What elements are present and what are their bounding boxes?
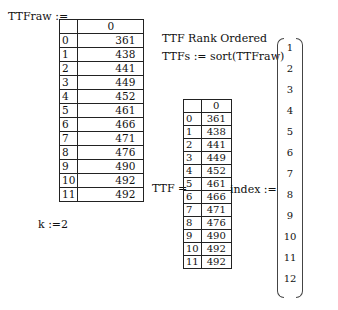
cell-value: 441 (201, 139, 231, 152)
cell-value: 466 (201, 191, 231, 204)
column-header: 0 (78, 20, 144, 34)
vector-item: 8 (277, 189, 303, 210)
table-row: 7471 (184, 204, 232, 217)
vector-item: 5 (277, 126, 303, 147)
cell-value: 449 (201, 152, 231, 165)
table-row: 1438 (60, 48, 144, 62)
row-index: 7 (184, 204, 202, 217)
table-row: 11492 (60, 188, 144, 202)
column-header: 0 (201, 100, 231, 113)
cell-value[interactable]: 452 (78, 90, 144, 104)
table-row: 2441 (184, 139, 232, 152)
sort-definition[interactable]: TTFs := sort(TTFraw) (162, 50, 284, 63)
ttf-sorted-label: TTF = (152, 182, 187, 195)
matrix-header-row: 0 (184, 100, 232, 113)
table-row: 5461 (184, 178, 232, 191)
row-index: 0 (60, 34, 78, 48)
vector-item: 6 (277, 147, 303, 168)
index-label: index := (230, 183, 277, 196)
corner-cell (184, 100, 202, 113)
row-index: 7 (60, 132, 78, 146)
cell-value[interactable]: 461 (78, 104, 144, 118)
cell-value[interactable]: 438 (78, 48, 144, 62)
ttf-sorted-matrix: 0 0361 1438 2441 3449 4452 5461 6466 747… (183, 99, 232, 269)
cell-value: 438 (201, 126, 231, 139)
cell-value[interactable]: 490 (78, 160, 144, 174)
cell-value[interactable]: 471 (78, 132, 144, 146)
table-row: 8476 (184, 217, 232, 230)
rank-ordered-heading: TTF Rank Ordered (162, 32, 267, 45)
vector-item: 2 (277, 63, 303, 84)
cell-value: 361 (201, 113, 231, 126)
table-row: 10492 (60, 174, 144, 188)
cell-value[interactable]: 449 (78, 76, 144, 90)
vector-item: 10 (277, 231, 303, 252)
table-row: 0361 (60, 34, 144, 48)
cell-value[interactable]: 466 (78, 118, 144, 132)
table-row: 4452 (60, 90, 144, 104)
table-row: 11492 (184, 256, 232, 269)
vector-item: 3 (277, 84, 303, 105)
vector-item: 9 (277, 210, 303, 231)
row-index: 4 (184, 165, 202, 178)
cell-value: 452 (201, 165, 231, 178)
table-row: 8476 (60, 146, 144, 160)
index-vector[interactable]: 1 2 3 4 5 6 7 8 9 10 11 12 (277, 38, 303, 296)
vector-item: 7 (277, 168, 303, 189)
row-index: 2 (60, 62, 78, 76)
cell-value: 476 (201, 217, 231, 230)
row-index: 10 (60, 174, 78, 188)
row-index: 4 (60, 90, 78, 104)
cell-value[interactable]: 476 (78, 146, 144, 160)
table-row: 7471 (60, 132, 144, 146)
cell-value[interactable]: 492 (78, 174, 144, 188)
row-index: 3 (184, 152, 202, 165)
cell-value[interactable]: 441 (78, 62, 144, 76)
vector-item: 4 (277, 105, 303, 126)
row-index: 11 (60, 188, 78, 202)
vector-item: 1 (277, 42, 303, 63)
ttfraw-matrix[interactable]: 0 0361 1438 2441 3449 4452 5461 6466 747… (59, 19, 144, 202)
k-definition[interactable]: k :=2 (38, 218, 68, 231)
cell-value: 492 (201, 243, 231, 256)
table-row: 6466 (60, 118, 144, 132)
matrix-header-row: 0 (60, 20, 144, 34)
row-index: 9 (184, 230, 202, 243)
table-row: 5461 (60, 104, 144, 118)
vector-item: 11 (277, 252, 303, 273)
table-row: 9490 (184, 230, 232, 243)
cell-value: 461 (201, 178, 231, 191)
table-row: 10492 (184, 243, 232, 256)
table-row: 0361 (184, 113, 232, 126)
row-index: 8 (60, 146, 78, 160)
table-row: 6466 (184, 191, 232, 204)
row-index: 8 (184, 217, 202, 230)
row-index: 10 (184, 243, 202, 256)
table-row: 4452 (184, 165, 232, 178)
row-index: 0 (184, 113, 202, 126)
row-index: 6 (184, 191, 202, 204)
table-row: 3449 (184, 152, 232, 165)
cell-value[interactable]: 492 (78, 188, 144, 202)
row-index: 2 (184, 139, 202, 152)
cell-value[interactable]: 361 (78, 34, 144, 48)
table-row: 2441 (60, 62, 144, 76)
row-index: 3 (60, 76, 78, 90)
cell-value: 471 (201, 204, 231, 217)
cell-value: 492 (201, 256, 231, 269)
table-row: 1438 (184, 126, 232, 139)
row-index: 9 (60, 160, 78, 174)
row-index: 5 (184, 178, 202, 191)
table-row: 9490 (60, 160, 144, 174)
row-index: 11 (184, 256, 202, 269)
table-row: 3449 (60, 76, 144, 90)
row-index: 5 (60, 104, 78, 118)
cell-value: 490 (201, 230, 231, 243)
row-index: 6 (60, 118, 78, 132)
corner-cell (60, 20, 78, 34)
row-index: 1 (60, 48, 78, 62)
vector-item: 12 (277, 273, 303, 294)
row-index: 1 (184, 126, 202, 139)
